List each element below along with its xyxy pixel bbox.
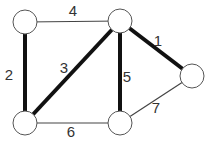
nodes-layer (13, 9, 204, 135)
edge-a-b (25, 21, 120, 22)
graph-node-a (13, 10, 37, 34)
graph-node-b (108, 9, 132, 33)
edge-weight-label: 4 (69, 2, 77, 19)
graph-node-c (180, 64, 204, 88)
graph-node-e (108, 111, 132, 135)
edge-weight-label: 3 (60, 59, 68, 76)
graph-diagram: 4231567 (0, 0, 208, 144)
edges-layer (25, 21, 192, 123)
edge-b-d (25, 21, 120, 123)
edge-weight-label: 5 (123, 68, 131, 85)
graph-node-d (13, 111, 37, 135)
edge-weight-label: 6 (67, 123, 75, 140)
edge-weight-label: 7 (152, 99, 160, 116)
edge-weight-label: 2 (5, 66, 13, 83)
edge-weight-label: 1 (154, 32, 162, 49)
